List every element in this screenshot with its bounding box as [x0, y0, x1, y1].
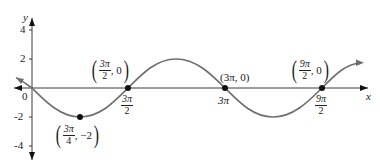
- annotation-9pi-over-2: ( 9π2 , 0 ): [290, 57, 330, 83]
- curve-arrow-right: [356, 60, 364, 67]
- x-tick-3pi-over-2: 3π2: [121, 94, 133, 116]
- y-axis-label: y: [23, 12, 28, 23]
- y-tick-2: 2: [20, 53, 26, 64]
- curve-arrow-left: [16, 78, 24, 84]
- point-min: [77, 114, 83, 120]
- point-3pi-over-2: [125, 85, 131, 91]
- annotation-3pi-over-2: ( 3π2 , 0 ): [90, 57, 130, 83]
- x-axis-label: x: [366, 91, 371, 102]
- annotation-min-point: ( 3π4 , −2 ): [54, 122, 101, 148]
- y-tick-4: 4: [20, 24, 26, 35]
- point-9pi-over-2: [319, 85, 325, 91]
- annotation-3pi: (3π, 0): [220, 72, 249, 83]
- origin-label: 0: [22, 91, 28, 102]
- y-tick-neg2: -2: [14, 111, 23, 122]
- y-tick-neg4: -4: [14, 140, 23, 151]
- x-tick-9pi-over-2: 9π2: [315, 94, 327, 116]
- point-3pi: [222, 85, 228, 91]
- x-tick-3pi: 3π: [218, 95, 229, 106]
- x-axis: [14, 85, 368, 91]
